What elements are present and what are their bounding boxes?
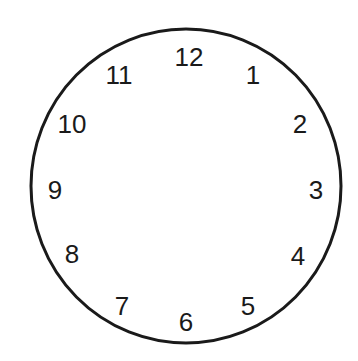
clock-number-1: 1 bbox=[246, 60, 260, 90]
clock-number-4: 4 bbox=[291, 241, 305, 271]
clock-number-10: 10 bbox=[58, 109, 87, 139]
clock-number-8: 8 bbox=[65, 239, 79, 269]
clock-number-2: 2 bbox=[293, 109, 307, 139]
clock-number-9: 9 bbox=[48, 175, 62, 205]
clock-number-7: 7 bbox=[115, 291, 129, 321]
clock-face-diagram: 121234567891011 bbox=[0, 0, 358, 361]
clock-number-3: 3 bbox=[309, 175, 323, 205]
clock-number-12: 12 bbox=[175, 42, 204, 72]
clock-face-circle bbox=[31, 29, 341, 343]
clock-number-11: 11 bbox=[106, 60, 133, 90]
clock-number-6: 6 bbox=[179, 307, 193, 337]
clock-number-5: 5 bbox=[241, 291, 255, 321]
clock-numbers: 121234567891011 bbox=[48, 42, 323, 337]
